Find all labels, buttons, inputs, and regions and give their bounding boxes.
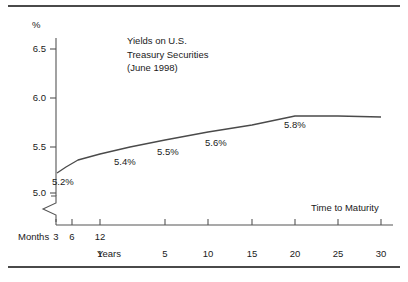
x-axis-title: Time to Maturity (311, 202, 379, 214)
data-label-5-2: 5.2% (52, 176, 74, 188)
data-label-5-8: 5.8% (284, 119, 306, 131)
x-tick-label-years-30: 30 (370, 248, 392, 260)
x-tick-label-years-5: 5 (154, 248, 176, 260)
x-tick-label-years-10: 10 (197, 248, 219, 260)
x-tick-label-years-25: 25 (327, 248, 349, 260)
y-tick-label-6-5: 6.5 (16, 43, 46, 55)
data-label-5-6: 5.6% (205, 137, 227, 149)
data-label-5-4: 5.4% (114, 156, 136, 168)
y-tick-label-6-0: 6.0 (16, 92, 46, 104)
figure-container: 6.5 6.0 5.5 5.0 % Yields on U.S. Treasur… (0, 0, 408, 282)
data-label-5-5: 5.5% (157, 146, 179, 158)
y-tick-label-5-0: 5.0 (16, 187, 46, 199)
y-tick-label-5-5: 5.5 (16, 141, 46, 153)
chart-title: Yields on U.S. Treasury Securities (June… (127, 34, 208, 75)
y-axis-unit-label: % (32, 19, 40, 31)
x-tick-label-years-1: 1 (89, 248, 111, 260)
x-tick-label-years-20: 20 (284, 248, 306, 260)
x-tick-label-months-6: 6 (61, 231, 83, 243)
x-tick-label-months-12: 12 (89, 231, 111, 243)
x-tick-label-years-15: 15 (241, 248, 263, 260)
axis-break-zigzag (43, 196, 56, 222)
